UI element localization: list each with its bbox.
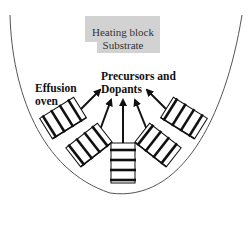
effusion-oven-5 — [160, 96, 208, 139]
arrow-1 — [80, 90, 100, 110]
heating-block-line1: Heating block — [86, 27, 160, 38]
effusion-oven-3 — [110, 143, 136, 183]
arrow-2 — [100, 100, 111, 130]
arrow-4 — [135, 100, 147, 130]
heating-block-line2: Substrate — [86, 40, 160, 51]
effusion-oven-label: Effusion oven — [35, 83, 77, 107]
effusion-label-line2: oven — [35, 96, 77, 108]
precursors-label-line2: Dopants — [101, 84, 176, 96]
effusion-oven-4 — [134, 122, 182, 167]
effusion-label-line1: Effusion — [35, 83, 77, 95]
precursors-dopants-label: Precursors and Dopants — [101, 71, 176, 95]
heating-block-label: Heating block Substrate — [86, 27, 160, 51]
precursors-label-line1: Precursors and — [101, 71, 176, 83]
effusion-oven-2 — [65, 122, 113, 167]
